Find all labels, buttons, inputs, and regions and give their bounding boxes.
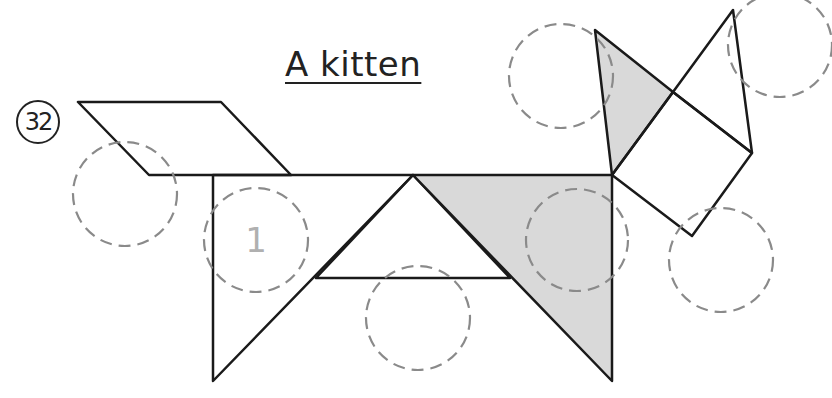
answer-slot-1[interactable]: [73, 142, 177, 246]
slot-hint-number: 1: [245, 220, 267, 260]
answer-slot-6[interactable]: [728, 0, 832, 97]
puzzle-title: A kitten: [285, 44, 421, 84]
answer-slot-3[interactable]: [366, 266, 470, 370]
parallelogram-tail-piece: [78, 102, 291, 175]
puzzle-number-badge: 32: [16, 100, 60, 144]
right-ear-triangle-piece: [673, 10, 752, 153]
answer-slot-5[interactable]: [509, 24, 613, 128]
answer-slot-7[interactable]: [669, 208, 773, 312]
